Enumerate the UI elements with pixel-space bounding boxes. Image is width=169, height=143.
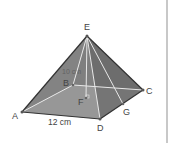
label-B: B <box>63 78 69 88</box>
label-E: E <box>84 22 90 32</box>
label-A: A <box>12 111 18 121</box>
point-E <box>86 35 89 38</box>
label-C: C <box>146 86 153 96</box>
pyramid-svg: 10 cm E A B C D F G 12 cm <box>0 0 169 143</box>
point-G <box>122 103 125 106</box>
pyramid-diagram: 10 cm E A B C D F G 12 cm <box>0 0 169 143</box>
label-G: G <box>123 107 130 117</box>
frame-divider <box>166 0 168 143</box>
front-face <box>22 36 100 119</box>
dimension-label-AD: 12 cm <box>48 117 71 127</box>
point-B <box>72 84 75 87</box>
point-F <box>85 97 88 100</box>
point-C <box>142 89 145 92</box>
point-D <box>99 118 102 121</box>
label-F: F <box>78 97 84 107</box>
point-A <box>21 111 24 114</box>
ghost-label: 10 cm <box>62 68 81 75</box>
label-D: D <box>97 123 104 133</box>
